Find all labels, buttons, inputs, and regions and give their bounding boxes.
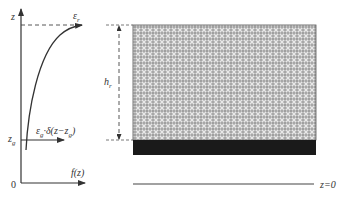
zg-label: zg <box>8 134 15 147</box>
canopy-block <box>133 25 316 155</box>
x-axis-label: f(z) <box>71 168 84 178</box>
profile-plot <box>21 9 85 183</box>
canopy-hatched-region <box>133 25 316 140</box>
delta-body: ·δ(z−z <box>43 125 68 136</box>
ground-label: z=0 <box>320 180 336 190</box>
curve-top-label: εr <box>73 11 80 24</box>
origin-label: 0 <box>11 180 16 190</box>
curve-label-sub: r <box>77 16 80 24</box>
y-axis-label: z <box>11 12 15 22</box>
ground-band <box>133 140 316 155</box>
zg-sub: g <box>12 139 16 147</box>
delta-close: ) <box>72 125 75 136</box>
height-label: hr <box>104 77 112 90</box>
delta-function-label: εg·δ(z−zg) <box>36 126 75 139</box>
canopy-profile-diagram <box>0 0 344 198</box>
height-sub: r <box>109 82 112 90</box>
